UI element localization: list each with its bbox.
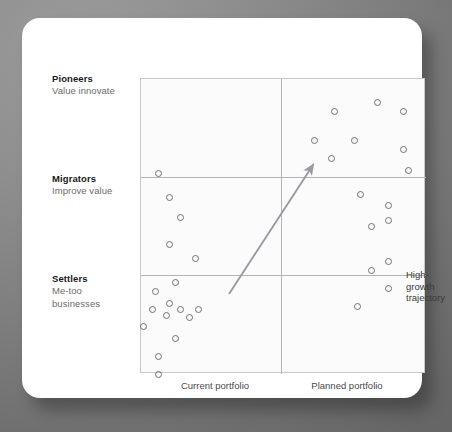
axis-label-planned-portfolio: Planned portfolio — [282, 380, 412, 391]
category-label-migrators: Migrators Improve value — [52, 172, 132, 198]
category-label-settlers: Settlers Me-toobusinesses — [52, 272, 132, 310]
axis-label-current-portfolio: Current portfolio — [150, 380, 280, 391]
category-title-settlers: Settlers — [52, 272, 132, 285]
category-subtitle-pioneers: Value innovate — [52, 85, 132, 98]
high-growth-trajectory-arrow — [229, 165, 313, 294]
category-subtitle-migrators: Improve value — [52, 185, 132, 198]
screenshot-stage: Pioneers Value innovate Migrators Improv… — [0, 0, 452, 432]
figure-card: Pioneers Value innovate Migrators Improv… — [22, 18, 422, 398]
category-label-column: Pioneers Value innovate Migrators Improv… — [52, 60, 132, 360]
category-subtitle-settlers: Me-toobusinesses — [52, 285, 132, 310]
category-title-pioneers: Pioneers — [52, 72, 132, 85]
trajectory-annotation-label: High-growthtrajectory — [406, 269, 452, 304]
trajectory-arrow-svg — [141, 79, 426, 374]
scatter-plot-area: High-growthtrajectory — [140, 78, 425, 373]
category-title-migrators: Migrators — [52, 172, 132, 185]
category-label-pioneers: Pioneers Value innovate — [52, 72, 132, 98]
